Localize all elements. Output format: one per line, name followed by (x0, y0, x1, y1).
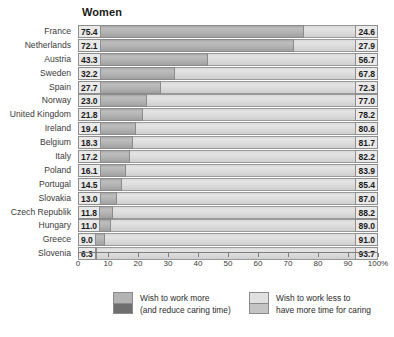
bar-value-label-left: 14.5 (78, 178, 101, 191)
axis-tick (198, 253, 199, 257)
bar-value-label-right: 27.9 (355, 39, 378, 52)
bar-value-label-left: 19.4 (78, 122, 101, 135)
axis-tick (378, 253, 379, 257)
bar-value-label-right: 87.0 (355, 192, 378, 205)
bar-value-label-right: 83.9 (355, 164, 378, 177)
axis-tick (78, 253, 79, 257)
category-label: Austria (0, 53, 74, 66)
bar-value-label-left: 13.0 (78, 192, 101, 205)
category-label: United Kingdom (0, 108, 74, 121)
legend-label-work-less: Wish to work less to have more time for … (276, 292, 371, 316)
axis-tick (318, 253, 319, 257)
category-axis-labels: FranceNetherlandsAustriaSwedenSpainNorwa… (0, 25, 74, 261)
axis-tick-label: 80 (314, 259, 323, 268)
category-label: France (0, 25, 74, 38)
bar-value-label-right: 88.2 (355, 206, 378, 219)
axis-tick-label: 40 (194, 259, 203, 268)
axis-tick (108, 253, 109, 257)
axis-tick (138, 253, 139, 257)
bar-segment-work-less (78, 219, 378, 232)
bar-row: 11.888.2 (78, 206, 378, 219)
chart-legend: Wish to work more (and reduce caring tim… (0, 292, 394, 326)
bar-value-label-left: 23.0 (78, 94, 101, 107)
bar-row: 14.585.4 (78, 178, 378, 191)
bar-segment-work-less (78, 233, 378, 246)
chart-container: Women FranceNetherlandsAustriaSwedenSpai… (0, 0, 394, 337)
bar-row: 75.424.6 (78, 25, 378, 38)
bar-value-label-right: 80.6 (355, 122, 378, 135)
bar-value-label-left: 21.8 (78, 108, 101, 121)
bar-value-label-right: 24.6 (355, 25, 378, 38)
axis-tick (288, 253, 289, 257)
bar-value-label-left: 11.8 (78, 206, 100, 219)
bar-row: 9.091.0 (78, 233, 378, 246)
bar-value-label-left: 75.4 (78, 25, 101, 38)
category-label: Slovenia (0, 247, 74, 260)
category-label: Czech Republik (0, 206, 74, 219)
axis-tick-label: 20 (134, 259, 143, 268)
bar-segment-work-more (78, 25, 304, 38)
category-label: Slovakia (0, 192, 74, 205)
bar-segment-work-less (78, 192, 378, 205)
axis-tick-label: 10 (104, 259, 113, 268)
chart-title: Women (82, 6, 122, 18)
bar-value-label-left: 32.2 (78, 67, 101, 80)
bar-row: 21.878.2 (78, 108, 378, 121)
category-label: Spain (0, 81, 74, 94)
axis-tick (228, 253, 229, 257)
axis-tick-label: 60 (254, 259, 263, 268)
bar-value-label-left: 17.2 (78, 150, 101, 163)
legend-item-work-more: Wish to work more (and reduce caring tim… (113, 292, 231, 316)
axis-tick-label: 90 (344, 259, 353, 268)
bar-row: 17.282.2 (78, 150, 378, 163)
category-label: Sweden (0, 67, 74, 80)
legend-label-work-more-line2: (and reduce caring time) (140, 305, 231, 315)
bar-value-label-right: 78.2 (355, 108, 378, 121)
bar-row: 13.087.0 (78, 192, 378, 205)
bar-value-label-left: 43.3 (78, 53, 101, 66)
category-label: Norway (0, 94, 74, 107)
axis-tick-label: 0 (76, 259, 80, 268)
bar-value-label-left: 72.1 (78, 39, 101, 52)
category-label: Italy (0, 150, 74, 163)
axis-tick-label: 30 (164, 259, 173, 268)
bar-segment-work-less (78, 178, 378, 191)
bar-value-label-right: 85.4 (355, 178, 378, 191)
bar-value-label-right: 77.0 (355, 94, 378, 107)
legend-label-work-more: Wish to work more (and reduce caring tim… (140, 292, 231, 316)
bar-row: 11.089.0 (78, 219, 378, 232)
value-axis: 0102030405060708090100% (78, 252, 378, 255)
bar-value-label-right: 82.2 (355, 150, 378, 163)
legend-label-work-less-line2: have more time for caring (276, 305, 371, 315)
axis-tick (168, 253, 169, 257)
bar-row: 19.480.6 (78, 122, 378, 135)
bar-value-label-left: 16.1 (78, 164, 101, 177)
plot-area: 75.424.672.127.943.356.732.267.827.772.3… (78, 25, 378, 246)
bar-value-label-right: 72.3 (355, 81, 378, 94)
bar-value-label-right: 56.7 (355, 53, 378, 66)
legend-label-work-less-line1: Wish to work less to (276, 293, 350, 303)
bar-row: 27.772.3 (78, 81, 378, 94)
legend-item-work-less: Wish to work less to have more time for … (249, 292, 371, 316)
legend-label-work-more-line1: Wish to work more (140, 293, 209, 303)
legend-swatch-work-less (249, 292, 269, 314)
bar-row: 72.127.9 (78, 39, 378, 52)
axis-tick (258, 253, 259, 257)
bar-row: 18.381.7 (78, 136, 378, 149)
legend-swatch-work-more (113, 292, 133, 314)
category-label: Netherlands (0, 39, 74, 52)
bar-segment-work-less (78, 206, 378, 219)
category-label: Belgium (0, 136, 74, 149)
bar-value-label-right: 91.0 (355, 233, 378, 246)
bar-row: 23.077.0 (78, 94, 378, 107)
axis-tick-label: 100% (368, 259, 388, 268)
axis-tick-label: 70 (284, 259, 293, 268)
category-label: Poland (0, 164, 74, 177)
bar-value-label-left: 11.0 (78, 219, 100, 232)
category-label: Portugal (0, 178, 74, 191)
bar-row: 32.267.8 (78, 67, 378, 80)
bar-value-label-right: 81.7 (355, 136, 378, 149)
bar-value-label-left: 9.0 (78, 233, 96, 246)
bar-value-label-left: 18.3 (78, 136, 101, 149)
bar-value-label-left: 27.7 (78, 81, 101, 94)
